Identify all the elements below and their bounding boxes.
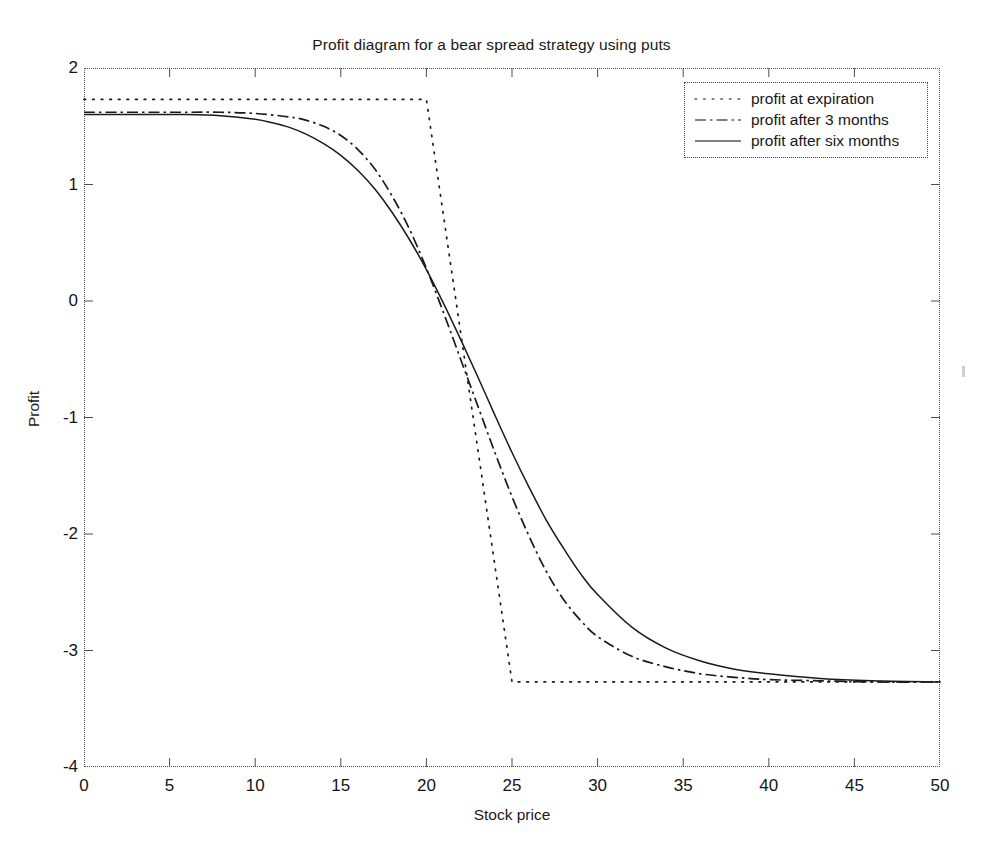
- x-tick-label: 5: [140, 776, 200, 796]
- x-axis-tick-labels: 05101520253035404550: [84, 776, 940, 802]
- x-tick-label: 50: [910, 776, 970, 796]
- plot-area: [84, 68, 940, 767]
- x-tick-label: 35: [653, 776, 713, 796]
- legend-label: profit at expiration: [751, 90, 874, 108]
- y-tick-label: 1: [32, 175, 78, 195]
- legend-item: profit after 3 months: [685, 109, 927, 130]
- scan-artifact: [962, 366, 965, 377]
- chart-legend: profit at expirationprofit after 3 month…: [684, 82, 928, 158]
- plot-series-svg: [84, 68, 940, 767]
- legend-label: profit after 3 months: [751, 111, 889, 129]
- x-tick-label: 20: [396, 776, 456, 796]
- figure-canvas: Profit diagram for a bear spread strateg…: [0, 0, 983, 856]
- y-tick-label: -4: [32, 757, 78, 777]
- legend-item: profit at expiration: [685, 88, 927, 109]
- y-tick-label: -3: [32, 641, 78, 661]
- y-tick-label: 0: [32, 291, 78, 311]
- y-tick-label: 2: [32, 58, 78, 78]
- x-tick-label: 40: [739, 776, 799, 796]
- x-tick-label: 45: [824, 776, 884, 796]
- series-line: [84, 99, 940, 682]
- legend-line-sample: [693, 114, 743, 126]
- series-line: [84, 112, 940, 682]
- x-tick-label: 15: [311, 776, 371, 796]
- legend-label: profit after six months: [751, 132, 899, 150]
- x-tick-label: 10: [225, 776, 285, 796]
- x-tick-label: 0: [54, 776, 114, 796]
- x-tick-label: 25: [482, 776, 542, 796]
- legend-line-sample: [693, 93, 743, 105]
- x-tick-label: 30: [568, 776, 628, 796]
- x-axis-label: Stock price: [84, 806, 940, 824]
- chart-title: Profit diagram for a bear spread strateg…: [0, 36, 983, 54]
- series-line: [84, 115, 940, 682]
- legend-item: profit after six months: [685, 130, 927, 151]
- legend-line-sample: [693, 135, 743, 147]
- y-tick-label: -2: [32, 524, 78, 544]
- y-tick-label: -1: [32, 408, 78, 428]
- y-axis-tick-labels: 210-1-2-3-4: [26, 68, 78, 767]
